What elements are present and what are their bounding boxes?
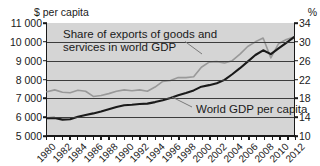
leader-lines [0,0,320,166]
chart-container: $ per capita % 11 00010 0009 0008 0007 0… [0,0,320,166]
leader-line-gdp [172,97,192,107]
leader-line-exports [185,42,202,55]
